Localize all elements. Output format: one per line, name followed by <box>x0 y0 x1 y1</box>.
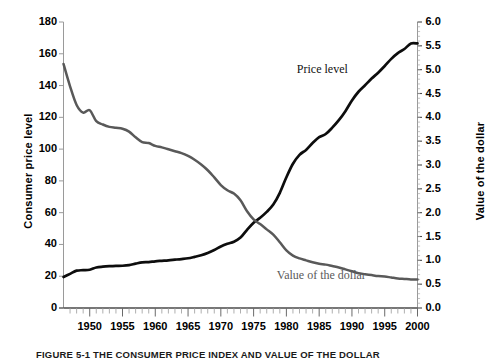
axes-group <box>59 22 422 317</box>
series-annotation-dollar-value: Value of the dollar <box>277 268 366 283</box>
series-group <box>64 43 418 279</box>
series-line-dollar-value <box>64 64 418 279</box>
figure-caption: FIGURE 5-1 THE CONSUMER PRICE INDEX AND … <box>36 349 380 360</box>
series-line-price-level <box>64 43 418 277</box>
series-annotation-price-level: Price level <box>297 62 348 77</box>
